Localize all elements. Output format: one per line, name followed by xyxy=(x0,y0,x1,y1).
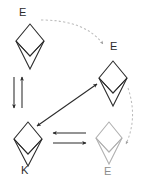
node-bottom-left-ethereum-diamond-icon xyxy=(14,122,42,166)
node-label-e-right: E xyxy=(110,41,117,52)
node-label-e-top: E xyxy=(19,7,26,18)
node-label-e-bottom: E xyxy=(104,166,111,177)
node-right-ethereum-diamond-icon xyxy=(99,61,127,106)
ethereum-upper-rhombus xyxy=(96,122,122,152)
ethereum-upper-rhombus xyxy=(99,61,127,93)
edge-diagonal xyxy=(37,84,97,126)
diagram-canvas: E E K E xyxy=(0,0,146,184)
ethereum-upper-rhombus xyxy=(16,24,44,56)
diagram-graphics xyxy=(0,0,146,184)
node-bottom-right-ethereum-diamond-icon xyxy=(96,122,122,164)
ethereum-upper-rhombus xyxy=(14,122,42,154)
edge-dashed-top xyxy=(41,20,103,44)
edge-dashed-right xyxy=(126,88,133,144)
node-top-left-ethereum-diamond-icon xyxy=(16,24,44,69)
node-label-k-bottom: K xyxy=(21,165,28,176)
